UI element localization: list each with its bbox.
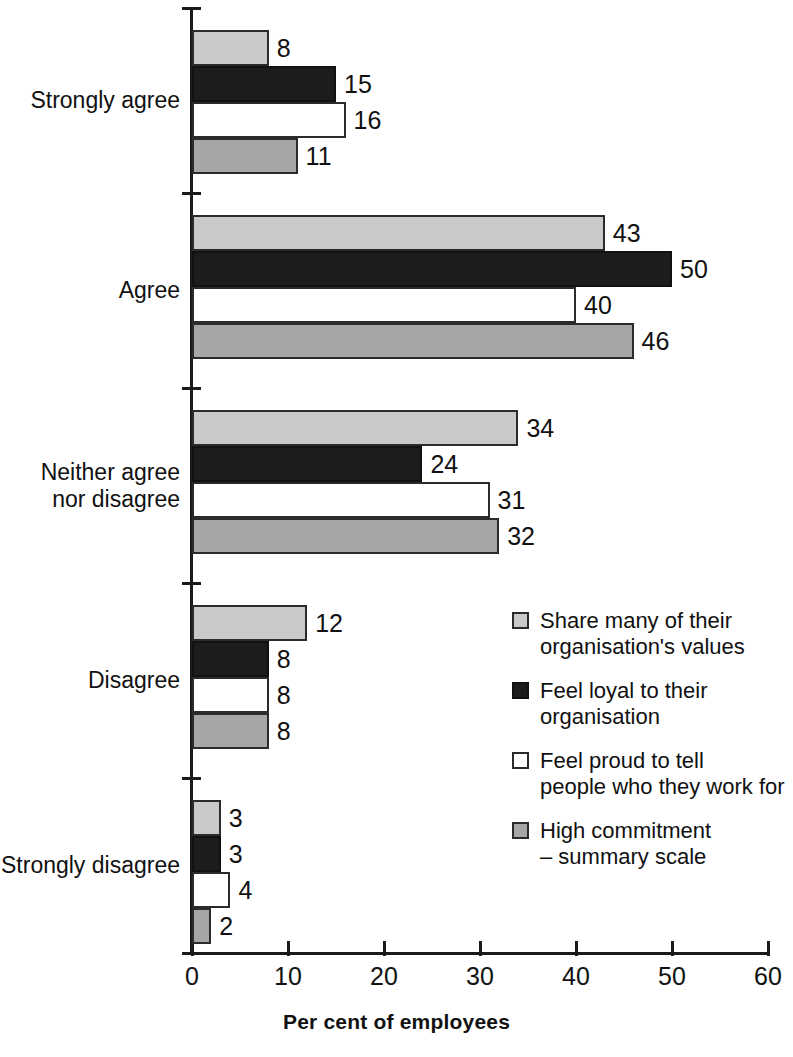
legend-label: High commitment – summary scale	[540, 818, 787, 870]
bar-value-label: 31	[498, 485, 526, 515]
bar	[192, 287, 576, 323]
bar	[192, 713, 269, 749]
x-axis-tick	[671, 941, 674, 956]
bar	[192, 215, 605, 251]
x-axis-tick	[287, 941, 290, 956]
bar	[192, 410, 518, 446]
bar-value-label: 43	[613, 218, 641, 248]
category-label: Disagree	[88, 667, 180, 694]
legend-item[interactable]: Share many of their organisation's value…	[512, 608, 787, 660]
legend-item[interactable]: High commitment – summary scale	[512, 818, 787, 870]
bar-value-label: 50	[680, 254, 708, 284]
y-axis-tick	[182, 387, 201, 390]
bar-value-label: 3	[229, 803, 243, 833]
bar-value-label: 8	[277, 644, 291, 674]
legend-swatch-icon	[512, 682, 529, 699]
bar	[192, 908, 211, 944]
x-axis-tick-label: 20	[349, 962, 419, 990]
x-axis-tick	[575, 941, 578, 956]
bar	[192, 446, 422, 482]
bar-value-label: 8	[277, 680, 291, 710]
x-axis-title: Per cent of employees	[0, 1010, 793, 1034]
legend-swatch-icon	[512, 752, 529, 769]
bar	[192, 251, 672, 287]
bar-value-label: 11	[306, 141, 332, 171]
bar	[192, 518, 499, 554]
y-axis-tick	[182, 777, 201, 780]
bar	[192, 677, 269, 713]
x-axis-tick-label: 30	[445, 962, 515, 990]
x-axis-tick-label: 60	[733, 962, 793, 990]
bar-value-label: 24	[430, 449, 458, 479]
bar-value-label: 16	[354, 105, 382, 135]
bar-value-label: 15	[344, 69, 372, 99]
x-axis-tick-label: 10	[253, 962, 323, 990]
bar	[192, 66, 336, 102]
legend-item[interactable]: Feel loyal to their organisation	[512, 678, 787, 730]
legend-label: Share many of their organisation's value…	[540, 608, 787, 660]
bar-value-label: 2	[219, 911, 233, 941]
plot-area: 0102030405060 Strongly agreeAgreeNeither…	[0, 0, 793, 1057]
bar	[192, 482, 490, 518]
bar	[192, 836, 221, 872]
bar	[192, 138, 298, 174]
bar	[192, 605, 307, 641]
x-axis-tick-label: 0	[157, 962, 227, 990]
bar	[192, 641, 269, 677]
bar-value-label: 8	[277, 33, 291, 63]
bar-value-label: 8	[277, 716, 291, 746]
legend-item[interactable]: Feel proud to tell people who they work …	[512, 748, 787, 800]
bar-value-label: 12	[315, 608, 343, 638]
legend-label: Feel proud to tell people who they work …	[540, 748, 787, 800]
bar-value-label: 46	[642, 326, 670, 356]
x-axis-tick-label: 40	[541, 962, 611, 990]
legend-label: Feel loyal to their organisation	[540, 678, 787, 730]
bar-value-label: 3	[229, 839, 243, 869]
category-label: Strongly disagree	[1, 852, 180, 879]
bar	[192, 30, 269, 66]
legend-swatch-icon	[512, 822, 529, 839]
legend-swatch-icon	[512, 612, 529, 629]
bar-value-label: 40	[584, 290, 612, 320]
x-axis-tick	[479, 941, 482, 956]
y-axis-tick	[182, 582, 201, 585]
bar	[192, 872, 230, 908]
bar	[192, 323, 634, 359]
bar-value-label: 34	[526, 413, 554, 443]
bar	[192, 102, 346, 138]
bar-value-label: 4	[238, 875, 252, 905]
x-axis-tick-label: 50	[637, 962, 707, 990]
bar	[192, 800, 221, 836]
category-label: Agree	[119, 277, 180, 304]
bar-chart: 0102030405060 Strongly agreeAgreeNeither…	[0, 0, 793, 1057]
x-axis-tick	[383, 941, 386, 956]
bar-value-label: 32	[507, 521, 535, 551]
x-axis-tick	[767, 941, 770, 956]
category-label: Neither agree nor disagree	[41, 459, 180, 513]
y-axis-tick	[182, 7, 201, 10]
category-label: Strongly agree	[30, 87, 180, 114]
chart-legend: Share many of their organisation's value…	[512, 608, 787, 888]
y-axis-tick	[182, 192, 201, 195]
